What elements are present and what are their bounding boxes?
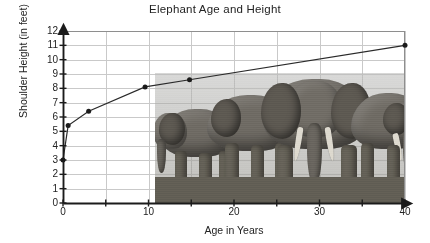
axis-lines <box>0 0 430 243</box>
chart-container: Elephant Age and Height Shoulder Height … <box>0 0 430 243</box>
